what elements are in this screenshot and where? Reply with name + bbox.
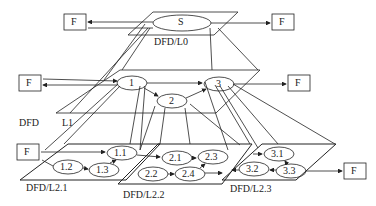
process-3-label: 3 <box>216 78 221 89</box>
external-F-label: F <box>71 16 77 27</box>
l2-1-plane <box>20 144 160 180</box>
external-F-label: F <box>26 77 32 88</box>
process-1-label: 1 <box>129 77 134 88</box>
external-F-label: F <box>24 146 30 157</box>
process-2.1-label: 2.1 <box>169 152 182 163</box>
process-3.2-label: 3.2 <box>246 163 259 174</box>
process-2-label: 2 <box>169 95 174 106</box>
process-2.2-label: 2.2 <box>145 168 158 179</box>
process-1.1-label: 1.1 <box>114 147 127 158</box>
level-l1-label-a: DFD <box>19 117 39 128</box>
level-l2-1-label: DFD/L2.1 <box>26 182 67 193</box>
process-2.4-label: 2.4 <box>182 168 195 179</box>
external-F-label: F <box>351 165 357 176</box>
process-3.1-label: 3.1 <box>271 148 284 159</box>
level-l1-label-b: L1 <box>62 117 73 128</box>
process-2.3-label: 2.3 <box>205 151 218 162</box>
level-l2-3-label: DFD/L2.3 <box>230 183 271 194</box>
process-1.3-label: 1.3 <box>96 164 109 175</box>
process-1.2-label: 1.2 <box>60 161 73 172</box>
level-l0-label: DFD/L0 <box>154 36 188 47</box>
level-l2-2-label: DFD/L2.2 <box>123 189 164 200</box>
l1-plane <box>56 70 260 113</box>
external-F-label: F <box>295 77 301 88</box>
process-3.3-label: 3.3 <box>283 165 296 176</box>
process-S-label: S <box>178 16 184 27</box>
external-F-label: F <box>279 16 285 27</box>
